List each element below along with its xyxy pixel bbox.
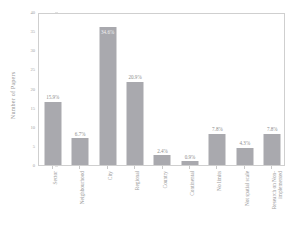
bar[interactable] — [154, 155, 171, 165]
bar-slot: 15.9% — [39, 14, 66, 165]
x-tick-label: Sector — [52, 171, 58, 235]
x-tick-label: Regional — [134, 171, 140, 235]
x-tick-mark — [107, 166, 108, 169]
bar[interactable] — [264, 134, 281, 165]
bar-chart-figure: Number of Papers 0510152025303540 15.9%6… — [0, 0, 302, 239]
y-axis-tick-labels: 0510152025303540 — [20, 13, 35, 166]
x-tick-label-line: Not spatial scale — [244, 171, 250, 206]
x-tick-label-line: implemented — [278, 171, 284, 235]
y-tick-label: 25 — [30, 68, 35, 73]
bar-value-label: 34.6% — [101, 30, 114, 35]
bar-value-label: 20.9% — [128, 75, 141, 80]
bar-value-label: 7.8% — [212, 127, 223, 132]
bar-value-label: 0.9% — [185, 155, 196, 160]
x-tick-label-line: Neighbourhood — [79, 171, 85, 204]
x-tick-label: Neighbourhood — [79, 171, 85, 235]
bar-series: 15.9%6.7%34.6%20.9%2.4%0.9%7.8%4.3%7.8% — [39, 14, 284, 165]
bar[interactable] — [99, 27, 116, 165]
x-tick-label: No limits — [216, 171, 222, 235]
y-axis-title: Number of Papers — [6, 40, 20, 150]
x-tick-label: Not spatial scale — [244, 171, 250, 235]
x-tick-mark — [52, 166, 53, 169]
y-tick-label: 20 — [30, 87, 35, 92]
bar-value-label: 7.8% — [267, 127, 278, 132]
x-tick-mark — [162, 166, 163, 169]
bar[interactable] — [236, 148, 253, 165]
bar-value-label: 4.3% — [240, 141, 251, 146]
x-tick-mark — [79, 166, 80, 169]
x-tick-label-line: Continental — [189, 171, 195, 196]
bar-slot: 7.8% — [204, 14, 231, 165]
bar-slot: 20.9% — [121, 14, 148, 165]
x-tick-mark — [216, 166, 217, 169]
x-tick-mark — [271, 166, 272, 169]
bar-slot: 4.3% — [231, 14, 258, 165]
bar-slot: 6.7% — [66, 14, 93, 165]
bar-slot: 0.9% — [176, 14, 203, 165]
bar-slot: 7.8% — [259, 14, 286, 165]
bar[interactable] — [127, 82, 144, 165]
bar-value-label: 6.7% — [75, 132, 86, 137]
x-tick-mark — [134, 166, 135, 169]
y-tick-label: 40 — [30, 11, 35, 16]
bar[interactable] — [44, 102, 61, 165]
x-tick-label: Country — [162, 171, 168, 235]
bar-slot: 2.4% — [149, 14, 176, 165]
y-tick-label: 0 — [33, 164, 35, 169]
x-tick-label: City — [107, 171, 113, 235]
bar[interactable] — [72, 138, 89, 165]
y-axis-title-text: Number of Papers — [10, 71, 17, 118]
bar[interactable] — [181, 161, 198, 165]
bar-slot: 34.6% — [94, 14, 121, 165]
x-tick-mark — [244, 166, 245, 169]
x-tick-label-line: Country — [162, 171, 168, 188]
x-tick-label-line: Regional — [134, 171, 140, 190]
x-tick-mark — [189, 166, 190, 169]
x-axis-tick-labels: SectorNeighbourhoodCityRegionalCountryCo… — [38, 166, 285, 236]
x-tick-label-line: City — [107, 171, 113, 180]
bar-value-label: 15.9% — [46, 95, 59, 100]
y-tick-label: 35 — [30, 30, 35, 35]
plot-area: 15.9%6.7%34.6%20.9%2.4%0.9%7.8%4.3%7.8% — [38, 13, 285, 166]
y-tick-label: 15 — [30, 106, 35, 111]
y-tick-label: 5 — [33, 145, 35, 150]
bar-value-label: 2.4% — [157, 149, 168, 154]
x-tick-label-line: No limits — [216, 171, 222, 191]
bar[interactable] — [209, 134, 226, 165]
y-tick-label: 30 — [30, 49, 35, 54]
x-tick-label: Research on Non-implemented — [271, 171, 284, 235]
x-tick-label: Continental — [189, 171, 195, 235]
x-tick-label-line: Sector — [52, 171, 58, 185]
y-tick-label: 10 — [30, 125, 35, 130]
